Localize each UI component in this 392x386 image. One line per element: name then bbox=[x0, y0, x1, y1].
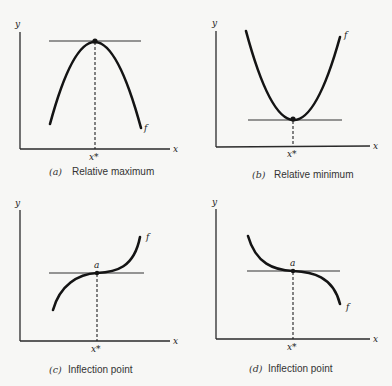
x-axis-label: x bbox=[373, 334, 378, 344]
panel-inflection-decreasing: y x a f x* (d) Inflection point bbox=[211, 197, 378, 374]
panel-relative-minimum: y x f x* (b) Relative minimum bbox=[211, 18, 378, 180]
panel-tag: (a) bbox=[49, 166, 62, 177]
x-axis-label: x bbox=[173, 144, 178, 154]
inflection-point bbox=[291, 269, 295, 273]
function-label: f bbox=[345, 302, 351, 312]
y-axis-label: y bbox=[14, 198, 21, 208]
x-axis-label: x bbox=[173, 336, 178, 346]
function-curve bbox=[246, 31, 340, 120]
y-axis-label: y bbox=[211, 18, 218, 28]
point-label: a bbox=[290, 258, 295, 268]
critical-x-label: x* bbox=[89, 152, 99, 162]
panel-tag: (d) bbox=[249, 363, 263, 374]
x-axis bbox=[216, 146, 370, 147]
panel-caption: Inflection point bbox=[68, 364, 133, 375]
panel-caption: Relative maximum bbox=[72, 166, 154, 177]
function-label: f bbox=[343, 30, 349, 40]
critical-x-label: x* bbox=[287, 149, 297, 159]
y-axis-label: y bbox=[211, 197, 218, 207]
minimum-point bbox=[290, 116, 295, 121]
panel-caption: Relative minimum bbox=[274, 169, 353, 180]
critical-x-label: x* bbox=[287, 342, 297, 352]
stationary-points-figure: y x f x* (a) Relative maximum y x f x* (… bbox=[0, 0, 392, 386]
point-label: a bbox=[94, 260, 99, 270]
panel-tag: (c) bbox=[49, 364, 62, 375]
critical-x-label: x* bbox=[91, 344, 101, 354]
function-label: f bbox=[145, 232, 151, 242]
panel-caption: Inflection point bbox=[268, 363, 333, 374]
panel-tag: (b) bbox=[252, 169, 266, 180]
inflection-point bbox=[95, 271, 99, 275]
maximum-point bbox=[92, 38, 97, 43]
panel-relative-maximum: y x f x* (a) Relative maximum bbox=[14, 19, 178, 177]
panel-inflection-increasing: y x a f x* (c) Inflection point bbox=[14, 198, 178, 375]
function-label: f bbox=[143, 123, 149, 133]
x-axis-label: x bbox=[373, 141, 378, 151]
y-axis-label: y bbox=[14, 19, 21, 29]
